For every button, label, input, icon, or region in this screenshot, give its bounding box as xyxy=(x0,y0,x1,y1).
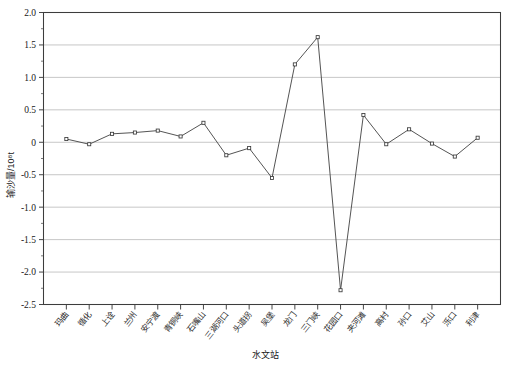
x-axis-title: 水文站 xyxy=(252,349,279,360)
data-point-marker xyxy=(430,142,433,145)
data-point-marker xyxy=(453,155,456,158)
data-point-marker xyxy=(339,289,342,292)
data-point-marker xyxy=(362,113,365,116)
y-axis-tick-label: -1.5 xyxy=(21,235,36,245)
y-axis-tick-label: 0.5 xyxy=(24,105,36,115)
data-point-marker xyxy=(293,63,296,66)
data-point-marker xyxy=(316,36,319,39)
data-point-marker xyxy=(385,143,388,146)
y-axis-tick-label: -1.0 xyxy=(21,203,36,213)
y-axis-title: 输沙量/10⁸t xyxy=(5,152,16,198)
line-chart: 2.01.51.00.50-0.5-1.0-1.5-2.0-2.5 玛曲循化上诠… xyxy=(0,0,519,367)
data-point-marker xyxy=(65,137,68,140)
data-point-marker xyxy=(179,135,182,138)
y-axis-tick-label: -2.5 xyxy=(21,300,36,310)
data-point-marker xyxy=(156,129,159,132)
data-point-marker xyxy=(225,154,228,157)
data-point-marker xyxy=(476,136,479,139)
chart-background xyxy=(0,0,519,367)
data-point-marker xyxy=(408,128,411,131)
y-axis-tick-label: 1.0 xyxy=(24,73,36,83)
data-point-marker xyxy=(133,131,136,134)
data-point-marker xyxy=(111,132,114,135)
data-point-marker xyxy=(88,143,91,146)
y-axis-tick-label: 0 xyxy=(31,138,36,148)
y-axis-tick-label: -0.5 xyxy=(21,170,36,180)
y-axis-tick-label: 2.0 xyxy=(24,8,36,18)
y-axis-tick-label: 1.5 xyxy=(24,40,36,50)
data-point-marker xyxy=(202,121,205,124)
data-point-marker xyxy=(248,147,251,150)
data-point-marker xyxy=(270,176,273,179)
y-axis-tick-label: -2.0 xyxy=(21,267,36,277)
chart-container: 2.01.51.00.50-0.5-1.0-1.5-2.0-2.5 玛曲循化上诠… xyxy=(0,0,519,367)
